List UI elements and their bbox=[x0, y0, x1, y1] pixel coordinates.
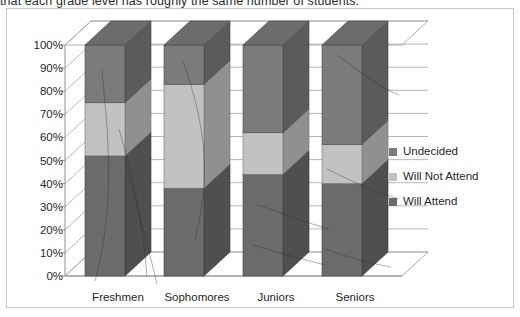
y-axis-tick-label: 30% bbox=[17, 201, 63, 213]
legend-swatch-icon bbox=[389, 198, 397, 206]
y-axis-tick-label: 20% bbox=[17, 224, 63, 236]
bar-column bbox=[164, 21, 230, 276]
y-axis-tick-label: 90% bbox=[17, 62, 63, 74]
chart-legend: UndecidedWill Not AttendWill Attend bbox=[389, 139, 513, 214]
y-axis-tick-label: 10% bbox=[17, 247, 63, 259]
legend-item: Will Not Attend bbox=[389, 164, 513, 189]
x-axis: FreshmenSophomoresJuniorsSeniors bbox=[7, 290, 514, 308]
x-axis-tick-label: Seniors bbox=[305, 290, 405, 304]
y-axis-tick-label: 40% bbox=[17, 178, 63, 190]
bar-column bbox=[243, 21, 309, 276]
y-axis-tick-label: 50% bbox=[17, 155, 63, 167]
legend-item-label: Will Not Attend bbox=[403, 170, 478, 183]
chart-container: 100%90%80%70%60%50%40%30%20%10%0% Freshm… bbox=[6, 8, 514, 308]
legend-item: Undecided bbox=[389, 139, 513, 164]
legend-item-label: Will Attend bbox=[403, 195, 457, 208]
legend-swatch-icon bbox=[389, 148, 397, 156]
y-axis-tick-label: 0% bbox=[17, 270, 63, 282]
legend-item: Will Attend bbox=[389, 189, 513, 214]
legend-swatch-icon bbox=[389, 173, 397, 181]
legend-item-label: Undecided bbox=[403, 145, 458, 158]
y-axis-tick-label: 60% bbox=[17, 131, 63, 143]
y-axis: 100%90%80%70%60%50%40%30%20%10%0% bbox=[11, 9, 63, 308]
bar-column bbox=[322, 21, 388, 276]
y-axis-tick-label: 100% bbox=[17, 39, 63, 51]
y-axis-tick-label: 80% bbox=[17, 85, 63, 97]
y-axis-tick-label: 70% bbox=[17, 108, 63, 120]
bar-column bbox=[85, 21, 151, 276]
